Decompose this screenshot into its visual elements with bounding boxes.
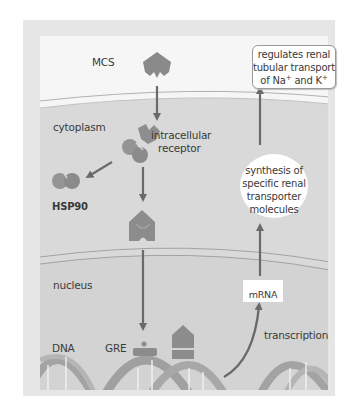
receptor-label-line2: receptor [158, 142, 201, 155]
mcs-label: MCS [92, 56, 114, 69]
regulates-transport-box: regulates renal tubular transport of Na+… [252, 45, 336, 89]
mrna-envelope: mRNA [243, 280, 283, 302]
regulates-line3: of Na+ and K+ [253, 74, 335, 87]
synthesis-line1: synthesis of [240, 164, 308, 177]
transcription-label: transcription [264, 329, 328, 342]
dna-label: DNA [52, 342, 75, 355]
cytoplasm-label: cytoplasm [53, 121, 105, 134]
receptor-label-line1: intracellular [151, 129, 211, 142]
regulates-line2: tubular transport [253, 61, 335, 74]
synthesis-line4: molecules [240, 203, 308, 216]
gre-label: GRE [105, 342, 126, 355]
synthesis-line3: transporter [240, 190, 308, 203]
nucleus-label: nucleus [53, 279, 92, 292]
synthesis-line2: specific renal [240, 177, 308, 190]
synthesis-transporter-ellipse: synthesis of specific renal transporter … [240, 154, 308, 218]
regulates-line1: regulates renal [253, 48, 335, 61]
k-text: and K [291, 75, 322, 86]
diagram-canvas: MCS cytoplasm intracellular receptor HSP… [0, 0, 358, 416]
na-text: of Na [260, 75, 285, 86]
k-charge: + [322, 74, 328, 82]
hsp90-label: HSP90 [52, 200, 88, 213]
mrna-label: mRNA [243, 288, 283, 301]
